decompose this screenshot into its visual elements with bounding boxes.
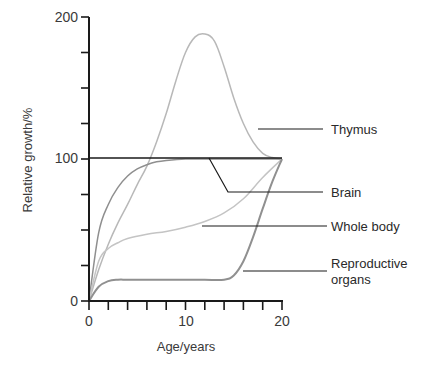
thymus-curve	[89, 34, 282, 301]
y-axis-title: Relative growth/%	[20, 107, 35, 212]
x-tick-label-10: 10	[178, 313, 194, 329]
curves-group	[89, 34, 282, 301]
x-axis-ticks	[89, 301, 282, 310]
y-tick-label-0: 0	[70, 293, 78, 309]
y-axis-ticks	[81, 17, 89, 301]
legend-reproductive-line1: Reproductive	[331, 256, 408, 271]
x-tick-label-0: 0	[85, 313, 93, 329]
growth-chart: 200 100 0 0 10 20 Age/years Relative gro…	[0, 0, 425, 371]
legend-thymus: Thymus	[331, 122, 378, 137]
legend-whole-body: Whole body	[331, 219, 400, 234]
x-tick-label-20: 20	[274, 313, 290, 329]
legend-reproductive-line2: organs	[331, 272, 371, 287]
y-tick-label-200: 200	[55, 9, 79, 25]
y-tick-label-100: 100	[55, 150, 79, 166]
x-axis-title: Age/years	[157, 339, 216, 354]
reproductive-organs-curve	[89, 159, 282, 301]
legend-brain: Brain	[331, 185, 361, 200]
